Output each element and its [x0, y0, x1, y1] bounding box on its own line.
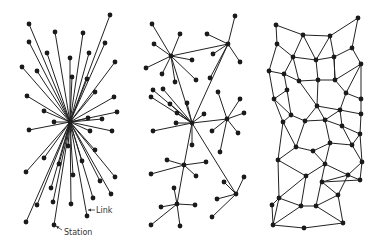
- station-node: [80, 159, 85, 164]
- link-line: [55, 32, 70, 122]
- station-node: [159, 205, 164, 210]
- link-line: [151, 204, 177, 225]
- station-node: [350, 143, 355, 148]
- station-node: [91, 196, 96, 201]
- station-node: [66, 144, 71, 149]
- link-line: [284, 74, 299, 81]
- station-node: [108, 13, 113, 18]
- station-node: [178, 32, 183, 37]
- link-line: [177, 204, 180, 226]
- hub-link-line: [177, 165, 184, 204]
- link-line: [278, 160, 279, 198]
- station-node: [359, 97, 364, 102]
- link-line: [276, 25, 303, 35]
- station-node: [172, 186, 177, 191]
- station-node: [193, 203, 198, 208]
- link-line: [313, 143, 330, 151]
- station-node: [350, 46, 355, 51]
- station-node: [45, 51, 50, 56]
- link-line: [293, 57, 316, 60]
- station-node: [302, 226, 307, 231]
- link-line: [171, 34, 180, 56]
- hub-node: [190, 121, 195, 126]
- station-node: [358, 132, 363, 137]
- station-node: [281, 120, 286, 125]
- link-line: [322, 182, 338, 195]
- link-line: [338, 175, 348, 195]
- link-line: [51, 122, 70, 188]
- station-node: [70, 75, 75, 80]
- station-node: [103, 41, 108, 46]
- station-node: [285, 88, 290, 93]
- link-line: [317, 106, 340, 110]
- station-node: [49, 186, 54, 191]
- link-line: [299, 81, 317, 106]
- station-node: [211, 52, 216, 57]
- decentralized-network: [144, 14, 247, 229]
- link-line: [334, 48, 352, 57]
- station-node: [87, 51, 92, 56]
- link-line: [296, 121, 305, 147]
- hub-node: [169, 54, 174, 59]
- station-node: [112, 95, 117, 100]
- link-line: [278, 160, 306, 176]
- station-node: [359, 62, 364, 67]
- link-line: [70, 79, 87, 122]
- station-node: [267, 69, 272, 74]
- link-line: [37, 71, 70, 122]
- link-line: [47, 53, 70, 122]
- station-node: [173, 80, 178, 85]
- station-node: [149, 172, 154, 177]
- station-node: [297, 79, 302, 84]
- station-node: [27, 22, 32, 27]
- station-node: [314, 204, 319, 209]
- link-line: [335, 80, 346, 93]
- hub-node: [175, 202, 180, 207]
- station-node: [304, 174, 309, 179]
- station-label: Station: [64, 228, 92, 237]
- station-node: [93, 90, 98, 95]
- link-line: [228, 16, 235, 44]
- link-line: [273, 225, 304, 228]
- station-node: [274, 23, 279, 28]
- link-line: [340, 110, 361, 114]
- link-line: [227, 113, 244, 119]
- station-node: [35, 203, 40, 208]
- link-line: [303, 35, 330, 36]
- station-node: [85, 77, 90, 82]
- link-line: [330, 18, 358, 36]
- station-node: [113, 175, 118, 180]
- link-line: [304, 223, 343, 228]
- link-line: [325, 143, 330, 164]
- station-node: [301, 33, 306, 38]
- link-line: [316, 195, 338, 206]
- link-line: [151, 165, 184, 174]
- station-node: [338, 108, 343, 113]
- station-node: [323, 162, 328, 167]
- link-line: [325, 110, 340, 120]
- station-node: [320, 180, 325, 185]
- link-line: [301, 176, 306, 206]
- station-node: [311, 149, 316, 154]
- link-line: [70, 97, 114, 122]
- link-line: [293, 57, 299, 81]
- station-node: [168, 102, 173, 107]
- hub-node: [182, 163, 187, 168]
- station-node: [210, 129, 215, 134]
- station-node: [160, 72, 165, 77]
- station-node: [149, 223, 154, 228]
- station-node: [238, 60, 243, 65]
- station-node: [277, 196, 282, 201]
- station-node: [165, 158, 170, 163]
- link-line: [278, 147, 296, 160]
- station-node: [151, 88, 156, 93]
- link-line: [146, 56, 171, 68]
- station-node: [53, 30, 58, 35]
- station-node: [144, 66, 149, 71]
- link-line: [274, 99, 283, 122]
- station-node: [323, 118, 328, 123]
- link-line: [283, 122, 296, 147]
- station-node: [344, 91, 349, 96]
- station-node: [100, 117, 105, 122]
- station-node: [20, 65, 25, 70]
